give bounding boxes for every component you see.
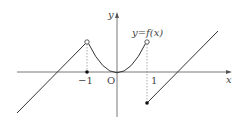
origin-label: O: [107, 75, 115, 86]
x-axis-label: x: [226, 74, 232, 85]
function-label: y=f(x): [131, 27, 163, 38]
tick-label-minus-one: −1: [78, 75, 93, 86]
filled-dot-minus-one-zero: [85, 70, 89, 74]
left-line-segment: [17, 44, 86, 114]
right-line-segment: [147, 31, 218, 103]
tick-label-one: 1: [151, 75, 157, 86]
filled-dot-one-minus-one: [145, 101, 149, 105]
function-graph: y x O −1 1 y=f(x): [0, 0, 241, 126]
open-circle-minus-one: [85, 40, 89, 44]
open-circle-one: [145, 40, 149, 44]
y-axis-label: y: [107, 9, 114, 20]
y-axis-arrow-icon: [115, 12, 119, 18]
